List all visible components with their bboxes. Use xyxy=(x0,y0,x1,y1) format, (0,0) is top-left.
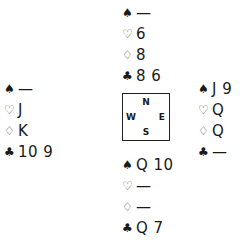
south-clubs-row: ♣Q 7 xyxy=(122,218,174,239)
spade-icon: ♠ xyxy=(122,3,136,24)
west-diamonds-row: ♢K xyxy=(4,121,53,142)
north-diamonds: 8 xyxy=(136,45,146,66)
east-spades: J 9 xyxy=(212,79,232,100)
east-diamonds-row: ♢Q xyxy=(198,121,232,142)
west-spades-row: ♠— xyxy=(4,79,53,100)
diamond-icon: ♢ xyxy=(122,45,136,66)
compass-south: S xyxy=(143,127,149,137)
club-icon: ♣ xyxy=(122,66,136,87)
spade-icon: ♠ xyxy=(198,79,212,100)
club-icon: ♣ xyxy=(4,142,18,163)
east-diamonds: Q xyxy=(212,121,224,142)
west-diamonds: K xyxy=(18,121,28,142)
heart-icon: ♡ xyxy=(122,176,136,197)
club-icon: ♣ xyxy=(122,218,136,239)
south-clubs: Q 7 xyxy=(136,218,164,239)
east-clubs-row: ♣— xyxy=(198,142,232,163)
south-spades-row: ♠Q 10 xyxy=(122,155,174,176)
spade-icon: ♠ xyxy=(122,155,136,176)
west-clubs-row: ♣10 9 xyxy=(4,142,53,163)
heart-icon: ♡ xyxy=(4,100,18,121)
compass-east: E xyxy=(159,112,165,122)
compass-west: W xyxy=(126,112,136,122)
north-spades-row: ♠— xyxy=(122,3,161,24)
south-diamonds-row: ♢— xyxy=(122,197,174,218)
north-clubs-row: ♣8 6 xyxy=(122,66,161,87)
north-hearts-row: ♡6 xyxy=(122,24,161,45)
club-icon: ♣ xyxy=(198,142,212,163)
compass-box: N W E S xyxy=(122,93,170,141)
west-hearts-row: ♡J xyxy=(4,100,53,121)
spade-icon: ♠ xyxy=(4,79,18,100)
east-hearts-row: ♡Q xyxy=(198,100,232,121)
north-hearts: 6 xyxy=(136,24,146,45)
diamond-icon: ♢ xyxy=(198,121,212,142)
north-hand: ♠— ♡6 ♢8 ♣8 6 xyxy=(122,3,161,87)
west-hand: ♠— ♡J ♢K ♣10 9 xyxy=(4,79,53,163)
north-spades: — xyxy=(136,3,152,24)
north-clubs: 8 6 xyxy=(136,66,161,87)
east-clubs: — xyxy=(212,142,228,163)
south-diamonds: — xyxy=(136,197,152,218)
heart-icon: ♡ xyxy=(122,24,136,45)
east-hearts: Q xyxy=(212,100,224,121)
diamond-icon: ♢ xyxy=(122,197,136,218)
diamond-icon: ♢ xyxy=(4,121,18,142)
west-spades: — xyxy=(18,79,34,100)
south-spades: Q 10 xyxy=(136,155,174,176)
heart-icon: ♡ xyxy=(198,100,212,121)
east-spades-row: ♠J 9 xyxy=(198,79,232,100)
east-hand: ♠J 9 ♡Q ♢Q ♣— xyxy=(198,79,232,163)
north-diamonds-row: ♢8 xyxy=(122,45,161,66)
south-hand: ♠Q 10 ♡— ♢— ♣Q 7 xyxy=(122,155,174,239)
compass-north: N xyxy=(142,97,150,107)
south-hearts: — xyxy=(136,176,152,197)
south-hearts-row: ♡— xyxy=(122,176,174,197)
west-clubs: 10 9 xyxy=(18,142,53,163)
west-hearts: J xyxy=(18,100,23,121)
